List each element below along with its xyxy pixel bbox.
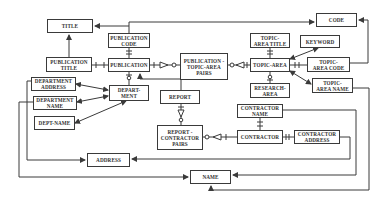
- entity-keyword: KEYWORD: [300, 35, 340, 48]
- entity-department: DEPART- MENT: [109, 85, 149, 101]
- entity-contractor-address: CONTRACTOR ADDRESS: [294, 130, 340, 144]
- entity-report: REPORT: [160, 90, 200, 104]
- entity-dept-name: DEPT-NAME: [34, 116, 75, 130]
- entity-publication-code: PUBLICATION CODE: [108, 33, 150, 48]
- entity-department-address: DEPARTMENT ADDRESS: [31, 77, 76, 91]
- entity-address: ADDRESS: [87, 153, 130, 167]
- entity-title: TITLE: [47, 19, 93, 33]
- entity-publication-topic-area-pairs: PUBLICATION - TOPIC-AREA PAIRS: [180, 53, 228, 80]
- entity-research-area: RESEARCH- AREA: [250, 83, 290, 98]
- entity-department-name: DEPARTMENT NAME: [33, 96, 77, 110]
- entity-name: NAME: [190, 170, 231, 184]
- entity-report-contractor-pairs: REPORT - CONTRACTOR PAIRS: [157, 125, 203, 150]
- entity-code: CODE: [316, 13, 357, 27]
- entity-topic-area-name: TOPIC- AREA NAME: [312, 78, 353, 93]
- entity-contractor-name: CONTRACTOR NAME: [237, 104, 283, 118]
- entity-topic-area-code: TOPIC- AREA CODE: [307, 57, 350, 72]
- entity-publication: PUBLICATION: [108, 58, 150, 72]
- entity-topic-area: TOPIC-AREA: [250, 58, 290, 72]
- er-diagram: TITLE PUBLICATION CODE PUBLICATION TITLE…: [0, 0, 389, 200]
- entity-contractor: CONTRACTOR: [237, 130, 283, 144]
- entity-topic-area-title: TOPIC- AREA TITLE: [250, 33, 290, 48]
- entity-publication-title: PUBLICATION TITLE: [46, 57, 92, 72]
